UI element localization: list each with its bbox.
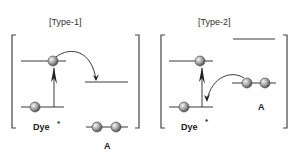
excited-star: * <box>205 117 209 126</box>
electron-transfer-arrow <box>207 75 244 100</box>
right-bracket <box>283 35 287 128</box>
acceptor-label: A <box>104 141 111 151</box>
left-bracket <box>161 35 165 128</box>
panel-type-2: [Type-2] A Dye * <box>161 17 287 132</box>
energy-diagram: [Type-1] Dye * A [Type-2] <box>0 0 296 159</box>
arrowhead-icon <box>204 94 210 102</box>
dye-label: Dye <box>181 122 198 132</box>
right-bracket <box>135 35 139 128</box>
electron-icon <box>111 122 121 132</box>
excited-star: * <box>57 119 61 128</box>
electron-icon <box>48 56 58 66</box>
arrowhead-icon <box>93 74 99 81</box>
electron-icon <box>30 102 40 112</box>
electron-icon <box>195 56 205 66</box>
acceptor-label: A <box>258 102 265 112</box>
electron-transfer-arrow <box>56 51 96 80</box>
panel-type-1: [Type-1] Dye * A <box>12 17 139 151</box>
electron-icon <box>260 78 270 88</box>
left-bracket <box>12 35 16 128</box>
electron-icon <box>92 122 102 132</box>
electron-icon <box>179 102 189 112</box>
panel-title: [Type-1] <box>49 17 82 27</box>
electron-icon <box>242 78 252 88</box>
dye-label: Dye <box>33 122 50 132</box>
panel-title: [Type-2] <box>198 17 231 27</box>
